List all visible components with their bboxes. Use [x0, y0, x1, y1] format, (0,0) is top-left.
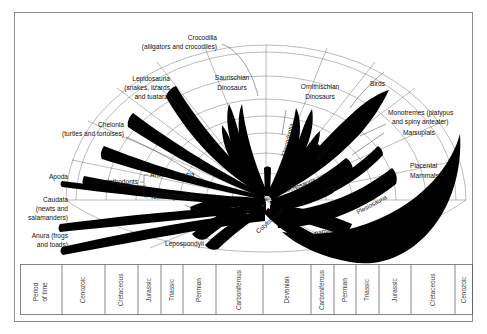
- period-jurassic-2: Jurassic: [391, 277, 398, 301]
- label-caudata-sub1: (newts and: [36, 205, 69, 213]
- label-labyrinthodonts: Labyrinthodonts: [91, 178, 139, 186]
- label-monotremes: Monotremes (platypus: [388, 109, 454, 117]
- label-anura-sub: and toads): [37, 241, 68, 249]
- evolution-fan-diagram: Crocodilia (alligators and crocodiles) L…: [0, 0, 487, 334]
- label-placental-2: Mammals: [410, 172, 439, 179]
- period-cenozoic-2: Cenozoic: [460, 276, 467, 303]
- label-ornithischian-2: Dinosaurs: [305, 93, 335, 100]
- label-lepidosauria-sub1: (snakes, lizards: [124, 84, 171, 92]
- label-crocodilia-sub: (alligators and crocodiles): [142, 43, 217, 51]
- period-axis-label-2: of time: [41, 282, 48, 302]
- label-placental: Placental: [410, 162, 438, 169]
- label-apoda: Apoda: [49, 173, 68, 181]
- label-saurischian-2: Dinosaurs: [217, 84, 247, 91]
- label-marsupials: Marsupials: [403, 129, 436, 137]
- period-devonian: Devonian: [283, 276, 290, 303]
- label-crocodilia: Crocodilia: [188, 34, 218, 41]
- period-permian-2: Permian: [341, 278, 348, 302]
- period-cenozoic-1: Cenozoic: [79, 276, 86, 303]
- label-temnospondyli: Temnospondyli: [150, 193, 195, 201]
- label-lepidosauria: Lepidosauria: [132, 75, 170, 83]
- period-cretaceous-2: Cretaceous: [429, 274, 436, 307]
- label-chelonia-sub: (turtles and tortoises): [62, 130, 124, 138]
- label-chelonia: Chelonia: [98, 121, 124, 128]
- label-caudata-sub2: salamanders): [28, 214, 68, 222]
- period-jurassic-1: Jurassic: [145, 277, 152, 301]
- label-saurischian: Saurischian: [215, 74, 250, 81]
- label-monotremes-sub: and spiny anteater): [392, 118, 448, 126]
- label-anura: Anura (frogs: [32, 232, 69, 240]
- period-triassic-2: Triassic: [363, 278, 370, 301]
- label-lepidosauria-sub2: and tuatara): [134, 93, 170, 101]
- label-ornithischian: Ornithischian: [301, 83, 340, 90]
- period-permian-1: Permian: [195, 278, 202, 302]
- period-carboniferous-1: Carboniferous: [235, 270, 242, 310]
- label-caudata: Caudata: [43, 196, 68, 203]
- label-anthracosauria: Anthracosauria: [150, 171, 195, 178]
- period-triassic-1: Triassic: [168, 278, 175, 301]
- period-axis-label-1: Period: [32, 282, 39, 301]
- label-lepospondyli: Lepospondyli: [165, 240, 204, 248]
- period-carboniferous-2: Carboniferous: [318, 270, 325, 310]
- period-cretaceous-1: Cretaceous: [117, 274, 124, 307]
- label-birds: Birds: [370, 80, 386, 87]
- wedge-thecodontia: [264, 167, 271, 197]
